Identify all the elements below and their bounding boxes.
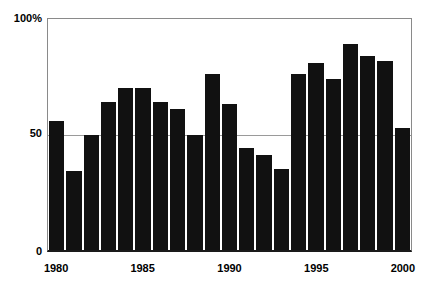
bar-1985 <box>135 88 150 250</box>
x-axis: 19801985199019952000 <box>47 262 412 282</box>
bar-slot <box>290 19 307 250</box>
bar-1981 <box>66 171 81 250</box>
bar-1998 <box>360 56 375 250</box>
bar-2000 <box>395 128 410 250</box>
bar-slot <box>221 19 238 250</box>
y-axis: 100% 50 0 <box>0 0 42 291</box>
bar-1984 <box>118 88 133 250</box>
bar-1991 <box>239 148 254 250</box>
bar-1992 <box>256 155 271 250</box>
bar-1994 <box>291 74 306 250</box>
x-axis-tick-label-1995: 1995 <box>304 262 328 274</box>
bar-1987 <box>170 109 185 250</box>
bar-slot <box>152 19 169 250</box>
bar-slot <box>325 19 342 250</box>
x-axis-tick-label-1985: 1985 <box>130 262 154 274</box>
bar-slot <box>117 19 134 250</box>
bar-chart: 100% 50 0 19801985199019952000 <box>0 0 424 291</box>
y-axis-tick-label-50: 50 <box>30 128 42 139</box>
y-axis-tick-label-0: 0 <box>36 246 42 257</box>
bar-slot <box>307 19 324 250</box>
bar-slot <box>48 19 65 250</box>
bar-slot <box>186 19 203 250</box>
bar-1989 <box>205 74 220 250</box>
bar-1999 <box>377 61 392 250</box>
x-axis-tick-label-1990: 1990 <box>217 262 241 274</box>
bar-slot <box>273 19 290 250</box>
bar-1980 <box>49 121 64 250</box>
bar-slot <box>134 19 151 250</box>
bar-1995 <box>308 63 323 250</box>
bar-slot <box>255 19 272 250</box>
bar-slot <box>100 19 117 250</box>
bar-slot <box>83 19 100 250</box>
bar-1990 <box>222 104 237 250</box>
bar-1988 <box>187 135 202 251</box>
bar-slot <box>394 19 411 250</box>
y-axis-tick-label-100: 100% <box>14 13 42 24</box>
x-axis-tick-label-1980: 1980 <box>44 262 68 274</box>
bar-1986 <box>153 102 168 250</box>
bar-1993 <box>274 169 289 250</box>
bar-slot <box>65 19 82 250</box>
bar-slot <box>169 19 186 250</box>
x-axis-tick-label-2000: 2000 <box>391 262 415 274</box>
bar-slot <box>204 19 221 250</box>
bar-1982 <box>84 135 99 251</box>
bar-slot <box>342 19 359 250</box>
bar-slot <box>359 19 376 250</box>
plot-area <box>47 18 412 252</box>
bar-1997 <box>343 44 358 250</box>
bar-1983 <box>101 102 116 250</box>
bar-1996 <box>326 79 341 250</box>
bars-layer <box>48 19 411 250</box>
bar-slot <box>238 19 255 250</box>
bar-slot <box>376 19 393 250</box>
